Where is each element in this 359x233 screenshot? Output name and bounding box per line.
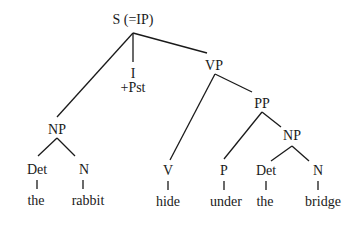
edge-root-subject-np [57,33,133,117]
word-bridge: bridge [305,194,341,209]
edge-subject-np-n [57,138,75,156]
word-the-2: the [256,194,273,209]
edge-root-vp [133,33,207,53]
edge-vp-pp [215,74,252,92]
node-vp-label: VP [205,58,223,73]
edge-object-np-det [271,146,292,161]
node-infl-label: I [131,66,136,81]
node-subject-np-label: NP [48,122,66,137]
word-hide: hide [156,194,180,209]
node-object-np-label: NP [283,128,301,143]
node-pp-label: PP [254,96,270,111]
node-object-det-label: Det [256,163,276,178]
word-under: under [210,194,242,209]
word-the-1: the [27,193,44,208]
node-prep-label: P [220,163,228,178]
edge-pp-prep [224,112,262,159]
node-subject-det-label: Det [27,162,47,177]
node-subject-n-label: N [79,162,89,177]
node-root-label: S (=IP) [113,12,154,28]
node-infl-feature: +Pst [120,80,145,95]
edge-pp-object-np [262,112,281,127]
edge-vp-verb [170,74,215,160]
edge-subject-np-det [38,138,57,156]
edge-object-np-n [292,146,309,161]
syntax-tree: S (=IP) I +Pst VP PP NP NP Det N V P Det… [0,0,359,233]
node-verb-label: V [163,163,173,178]
word-rabbit: rabbit [72,193,105,208]
node-object-n-label: N [313,163,323,178]
